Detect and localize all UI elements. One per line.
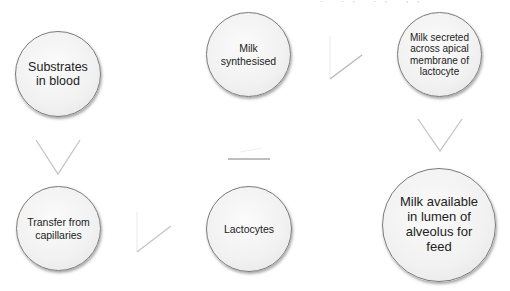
- arrow-down-icon: [34, 138, 82, 178]
- node-milk-synthesised: Milk synthesised: [206, 12, 291, 97]
- arrow-right-icon: [326, 33, 366, 83]
- node-transfer-from-capillaries: Transfer from capillaries: [16, 186, 101, 271]
- node-milk-available: Milk available in lumen of alveolus for …: [382, 168, 496, 282]
- node-lactocytes: Lactocytes: [206, 186, 292, 272]
- node-label: Milk synthesised: [221, 42, 276, 66]
- arrow-up-icon: [226, 144, 274, 164]
- node-substrates-in-blood: Substrates in blood: [15, 31, 101, 117]
- node-milk-secreted: Milk secreted across apical membrane of …: [397, 12, 482, 97]
- node-label: Milk available in lumen of alveolus for …: [400, 195, 478, 255]
- node-label: Transfer from capillaries: [27, 216, 90, 240]
- node-label: Milk secreted across apical membrane of …: [410, 32, 469, 78]
- cropped-caption-fragment: ' . ' . , ' . , ' , ,: [310, 0, 440, 4]
- node-label: Substrates in blood: [28, 60, 88, 89]
- arrow-right-icon: [134, 210, 174, 254]
- node-label: Lactocytes: [224, 223, 274, 235]
- arrow-down-icon: [416, 117, 464, 155]
